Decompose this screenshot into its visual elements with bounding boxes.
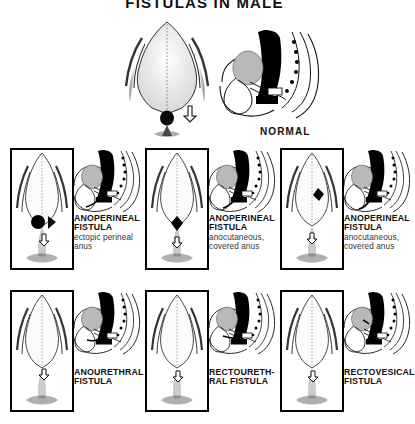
- figure-title: FISTULAS IN MALE: [0, 0, 409, 11]
- sagittal-section: [68, 290, 144, 362]
- case-sub-line2: anus: [74, 242, 140, 251]
- sacrum-vertebrae: [384, 151, 397, 205]
- bladder-gray: [217, 165, 238, 189]
- perineal-view: [282, 292, 342, 410]
- sagittal-section: [338, 148, 414, 220]
- normal-diagram-group: NORMAL: [112, 18, 342, 140]
- buttocks-outline: [17, 153, 67, 263]
- normal-perineal-view: [112, 18, 222, 138]
- sagittal-section: [203, 290, 279, 362]
- case-caption: ANOPERINEAL FISTULA anocutaneous, covere…: [209, 214, 275, 252]
- case-caption: RECTOVESICAL FISTULA: [344, 368, 415, 387]
- fistula-tract: [86, 200, 98, 207]
- case-caption: ANOURETHRAL FISTULA: [74, 368, 144, 387]
- lesion-markers: [31, 215, 56, 246]
- normal-label: NORMAL: [260, 126, 310, 137]
- case-heading-line2: FISTULA: [209, 223, 275, 232]
- sagittal-section: [203, 148, 279, 220]
- perineal-frame: [145, 148, 209, 270]
- case-caption: RECTOURETH- RAL FISTULA: [209, 368, 275, 387]
- normal-sagittal-section: [212, 26, 332, 134]
- perineal-frame: [280, 290, 344, 412]
- arrow-pointer-icon: [184, 106, 196, 122]
- case-heading-line2: FISTULA: [74, 377, 144, 386]
- case-heading-line2: FISTULA: [344, 377, 415, 386]
- buttocks-outline: [287, 153, 337, 263]
- perineal-view: [12, 292, 72, 410]
- sacrum-vertebrae: [282, 32, 299, 108]
- bladder-gray: [217, 307, 238, 331]
- perineal-view: [147, 292, 207, 410]
- perineal-frame: [10, 290, 74, 412]
- case-caption: ANOPERINEAL FISTULA ectopic perineal anu…: [74, 214, 140, 252]
- anus-marker: [154, 111, 180, 138]
- case-heading-line2: FISTULA: [74, 223, 140, 232]
- sacrum-vertebrae: [384, 293, 397, 347]
- case-sub-line1: anocutaneous,: [209, 233, 275, 242]
- fistula-tract: [87, 340, 98, 341]
- sacrum-vertebrae: [249, 151, 262, 205]
- case-sub-line1: anocutaneous,: [344, 233, 410, 242]
- sagittal-section: [68, 148, 144, 220]
- bladder-gray: [233, 51, 263, 85]
- bladder-gray: [352, 165, 373, 189]
- perineal-frame: [10, 148, 74, 270]
- fistula-tract: [223, 336, 233, 338]
- buttocks-outline: [287, 295, 337, 405]
- bladder-gray: [352, 307, 373, 331]
- case-sub-line2: covered anus: [344, 242, 410, 251]
- case-heading-line2: FISTULA: [344, 223, 410, 232]
- bladder-gray: [82, 307, 103, 331]
- case-sub-line2: covered anus: [209, 242, 275, 251]
- bladder-gray: [82, 165, 103, 189]
- perineal-view: [282, 150, 342, 268]
- buttocks-outline: [152, 295, 202, 405]
- sagittal-section: [338, 290, 414, 362]
- perineal-frame: [280, 148, 344, 270]
- sacrum-vertebrae: [114, 151, 127, 205]
- case-heading-line2: RAL FISTULA: [209, 377, 275, 386]
- case-caption: ANOPERINEAL FISTULA anocutaneous, covere…: [344, 214, 410, 252]
- sacrum-vertebrae: [249, 293, 262, 347]
- buttocks-outline: [126, 22, 208, 114]
- perineal-frame: [145, 290, 209, 412]
- buttocks-outline: [17, 295, 67, 405]
- sacrum-vertebrae: [114, 293, 127, 347]
- perineal-view: [147, 150, 207, 268]
- perineal-view: [12, 150, 72, 268]
- case-sub-line1: ectopic perineal: [74, 233, 140, 242]
